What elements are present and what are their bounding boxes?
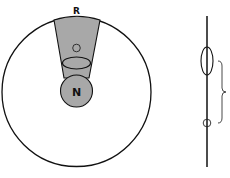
side-view — [201, 16, 226, 167]
diagram-canvas: R N — [0, 0, 230, 178]
top-view: R N — [2, 6, 151, 167]
label-r: R — [73, 6, 80, 16]
label-n: N — [72, 86, 81, 99]
brace — [218, 61, 226, 123]
